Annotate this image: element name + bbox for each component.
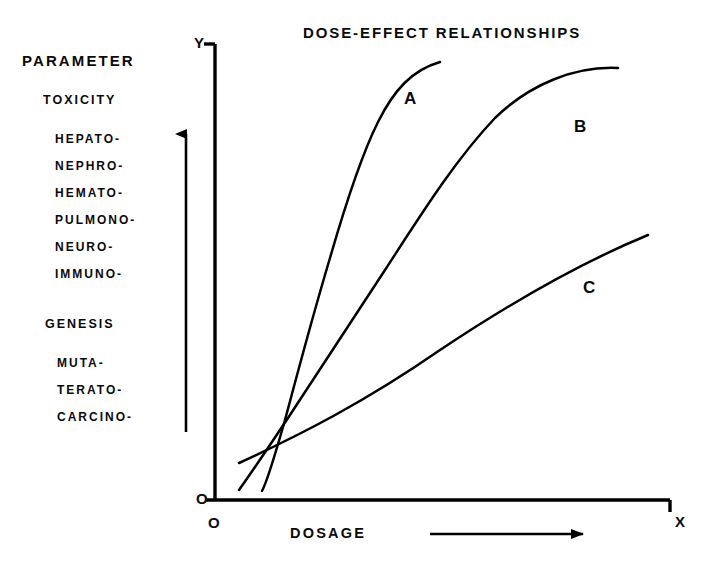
toxicity-item-pulmono: PULMONO- <box>55 214 136 226</box>
curve-b <box>239 68 618 490</box>
toxicity-item-hepato: HEPATO- <box>55 133 121 145</box>
genesis-item-muta: MUTA- <box>57 357 105 369</box>
toxicity-item-neuro: NEURO- <box>55 241 114 253</box>
x-axis-caption: DOSAGE <box>290 526 366 541</box>
toxicity-item-hemato: HEMATO- <box>55 187 124 199</box>
genesis-item-carcino: CARCINO- <box>57 411 133 423</box>
dose-effect-figure: DOSE-EFFECT RELATIONSHIPS PARAMETER TOXI… <box>0 0 701 565</box>
curve-a <box>262 62 440 491</box>
toxicity-item-immuno: IMMUNO- <box>55 268 123 280</box>
figure-title: DOSE-EFFECT RELATIONSHIPS <box>303 25 581 40</box>
origin-label-x-axis: O <box>208 515 220 530</box>
toxicity-item-nephro: NEPHRO- <box>55 160 124 172</box>
group-label-genesis: GENESIS <box>45 318 115 331</box>
curve-label-c: C <box>583 279 595 296</box>
curve-label-b: B <box>574 118 586 135</box>
figure-canvas <box>0 0 701 565</box>
group-label-toxicity: TOXICITY <box>43 94 116 107</box>
y-axis-label: Y <box>194 35 204 50</box>
origin-label-y-axis: O <box>196 491 208 506</box>
curve-label-a: A <box>404 90 416 107</box>
x-axis-label: X <box>675 514 685 529</box>
parameter-heading: PARAMETER <box>22 53 135 68</box>
curve-c <box>239 235 648 463</box>
genesis-item-terato: TERATO- <box>57 384 123 396</box>
